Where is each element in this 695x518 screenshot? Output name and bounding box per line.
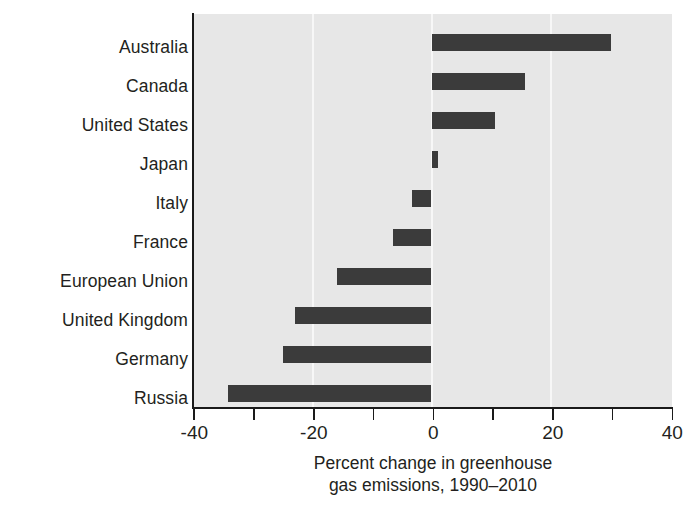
- x-ticklabel-plus40: 40: [662, 421, 683, 445]
- y-axis-label-european-union: European Union: [0, 273, 188, 290]
- x-ticklabel-minus40: -40: [181, 421, 208, 445]
- y-axis-label-russia: Russia: [0, 390, 188, 407]
- x-tick-plus30: [612, 409, 614, 420]
- x-ticklabel-minus20: -20: [300, 421, 327, 445]
- y-axis-label-italy: Italy: [0, 195, 188, 212]
- x-axis-title-line-2: gas emissions, 1990–2010: [194, 474, 672, 496]
- x-tick-plus40: [672, 409, 674, 420]
- y-axis-label-australia: Australia: [0, 39, 188, 56]
- bar-european-union: [337, 268, 431, 285]
- bar-germany: [283, 346, 432, 363]
- gridline-plus20: [550, 14, 552, 408]
- bar-canada: [432, 73, 525, 90]
- y-axis-label-japan: Japan: [0, 156, 188, 173]
- y-axis-category-labels: Australia Canada United States Japan Ita…: [0, 14, 188, 408]
- x-axis-tick-labels: -40 -20 0 20 40: [0, 421, 695, 447]
- bar-japan: [432, 151, 438, 168]
- bar-australia: [432, 34, 610, 51]
- chart-figure: Australia Canada United States Japan Ita…: [0, 0, 695, 518]
- plot-area: [194, 14, 672, 408]
- x-tick-zero: [433, 409, 435, 420]
- bar-russia: [228, 385, 431, 402]
- bar-united-kingdom: [295, 307, 432, 324]
- x-tick-minus20: [313, 409, 315, 420]
- y-axis-label-canada: Canada: [0, 78, 188, 95]
- x-tick-plus20: [552, 409, 554, 420]
- x-tick-minus30: [253, 409, 255, 420]
- x-axis-title-line-1: Percent change in greenhouse: [194, 452, 672, 474]
- x-axis-title: Percent change in greenhouse gas emissio…: [194, 452, 672, 496]
- x-ticklabel-plus20: 20: [542, 421, 563, 445]
- x-ticklabel-zero: 0: [428, 421, 439, 445]
- y-axis-label-united-states: United States: [0, 117, 188, 134]
- bar-united-states: [432, 112, 494, 129]
- y-axis-label-france: France: [0, 234, 188, 251]
- y-axis-label-united-kingdom: United Kingdom: [0, 312, 188, 329]
- x-tick-minus40: [193, 409, 195, 420]
- x-axis-ticks: [0, 409, 695, 421]
- x-tick-minus10: [373, 409, 375, 420]
- y-axis-label-germany: Germany: [0, 351, 188, 368]
- y-axis-spine: [192, 13, 194, 409]
- bar-italy: [412, 190, 432, 207]
- bar-france: [393, 229, 431, 246]
- x-tick-plus10: [492, 409, 494, 420]
